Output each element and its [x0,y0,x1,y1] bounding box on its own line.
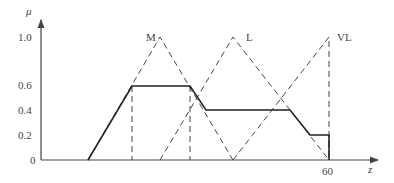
membership-L [160,37,329,160]
y-tick-1-0: 1.0 [18,32,32,43]
y-axis-label: μ [26,6,32,17]
x-tick-60: 60 [322,166,333,177]
set-label-VL: VL [337,32,352,43]
y-tick-0: 0 [30,155,36,166]
y-tick-0-6: 0.6 [18,80,32,91]
membership-M [88,37,233,160]
fuzzy-membership-chart [0,0,394,183]
y-tick-0-4: 0.4 [18,105,32,116]
y-tick-0-2: 0.2 [18,130,32,141]
aggregated-output [88,86,329,160]
x-axis-label: z [368,164,372,175]
set-label-M: M [146,32,156,43]
set-label-L: L [246,32,253,43]
